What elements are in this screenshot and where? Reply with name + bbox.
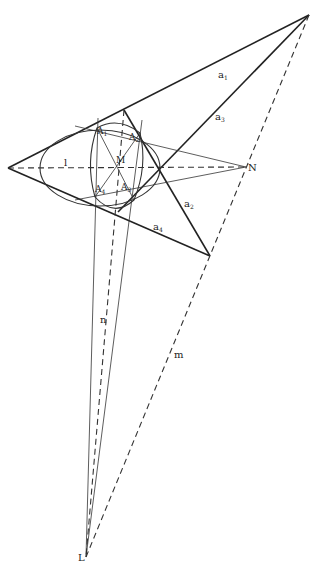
label-a3: a3 (215, 111, 225, 123)
label-a4: a4 (153, 221, 163, 233)
line-l (8, 167, 246, 168)
line-a4 (8, 168, 210, 256)
label-a2: a2 (184, 198, 194, 210)
label-A3: A3 (120, 182, 132, 193)
line-a2 (124, 110, 210, 256)
label-A1: A1 (96, 126, 107, 137)
line-m (86, 15, 309, 557)
geometry-diagram: a1 a3 a2 a4 A1 A2 A3 A4 M N L l n m (0, 0, 318, 570)
label-M: M (116, 155, 125, 165)
label-m: m (174, 349, 184, 360)
line-n (86, 110, 124, 557)
label-n: n (100, 314, 107, 325)
label-N: N (248, 162, 257, 173)
label-l: l (64, 157, 67, 168)
line-a3 (118, 15, 309, 212)
line-a1 (8, 15, 309, 168)
label-a1: a1 (218, 69, 228, 81)
label-A4: A4 (94, 184, 106, 195)
label-L: L (78, 552, 85, 563)
